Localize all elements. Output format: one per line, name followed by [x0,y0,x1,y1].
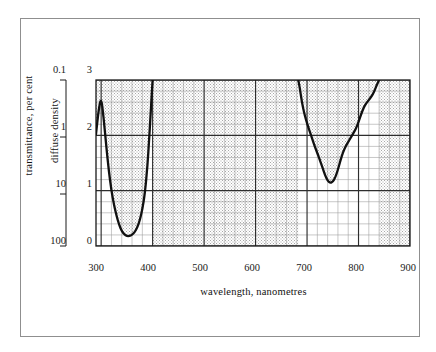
figure-canvas: transmittance, per cent diffuse density … [0,0,436,352]
shaded-opaque-region [96,80,410,246]
plot-area [0,0,436,352]
transmittance-axis-bracket [60,80,66,246]
